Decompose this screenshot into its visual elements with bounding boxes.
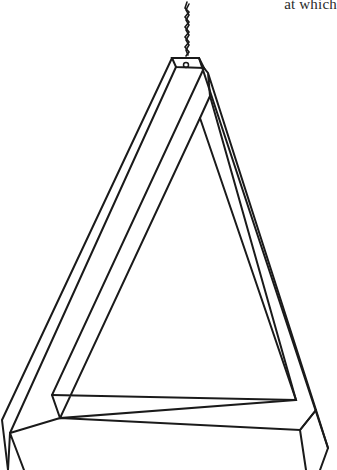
triangle-bottom-bar (8, 410, 328, 470)
triangle-outer-edge (2, 58, 328, 470)
triangle-left-bar (10, 67, 204, 433)
triangle-inner-contour (200, 96, 296, 400)
cord-icon (185, 2, 189, 56)
